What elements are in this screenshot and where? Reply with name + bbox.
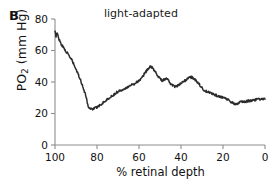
y-tick-label: 20 (35, 107, 48, 119)
x-tick-group: 100806040200 (45, 145, 268, 163)
plot-area: 020406080 100806040200 (0, 0, 278, 186)
x-tick-label: 100 (45, 151, 65, 163)
y-tick-label: 40 (35, 76, 48, 88)
x-tick-label: 40 (174, 151, 187, 163)
x-tick-label: 60 (132, 151, 145, 163)
y-tick-group: 020406080 (35, 13, 55, 151)
x-tick-label: 20 (216, 151, 229, 163)
po2-trace-line (55, 31, 265, 110)
figure-panel-b: B light-adapted PO2 (mm Hg) % retinal de… (0, 0, 278, 186)
x-tick-label: 80 (90, 151, 103, 163)
y-tick-label: 0 (41, 139, 48, 151)
x-tick-label: 0 (262, 151, 269, 163)
y-tick-label: 60 (35, 44, 48, 56)
y-tick-label: 80 (35, 13, 48, 25)
